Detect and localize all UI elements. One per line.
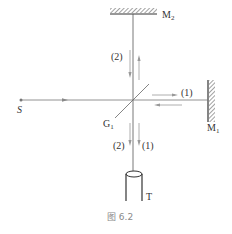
beam2-arrows [128, 50, 140, 80]
label-beam2-top: (2) [111, 51, 123, 63]
arrow-down-icon [128, 72, 131, 78]
label-source: S [17, 104, 22, 115]
label-telescope: T [146, 191, 152, 202]
interferometer-diagram: M2 M1 S G1 (2) (1) (2) (1) [0, 0, 232, 234]
beam-splitter-g1 [115, 84, 149, 118]
label-m2: M2 [162, 9, 175, 22]
label-g1: G1 [103, 118, 114, 131]
label-beam2-out: (2) [113, 140, 125, 152]
arrow-right-icon [172, 93, 178, 96]
arrow-down-icon [137, 140, 140, 146]
label-beam1-out: (1) [142, 140, 154, 152]
label-beam1-right: (1) [181, 87, 193, 99]
source-point [20, 99, 23, 102]
mirror-m2 [110, 8, 157, 14]
arrow-down-icon [128, 140, 131, 146]
figure-caption: 图 6.2 [107, 212, 133, 222]
telescope [126, 171, 142, 201]
arrow-left-icon [154, 103, 160, 106]
source-arrow-icon [62, 98, 68, 101]
mirror-m1 [208, 80, 215, 122]
label-m1: M1 [207, 122, 220, 135]
arrow-up-icon [137, 55, 140, 61]
output-arrows [128, 123, 140, 146]
